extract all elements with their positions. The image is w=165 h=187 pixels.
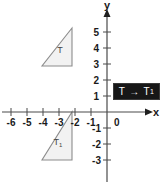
y-tick-label-3: 3 — [93, 59, 99, 70]
x-axis-label: x — [153, 106, 160, 118]
badge-arrow-icon: → — [129, 86, 139, 97]
y-tick-label-4: 4 — [93, 43, 99, 54]
x-tick-label--4: -4 — [39, 117, 48, 128]
badge-to-subscript: 1 — [150, 88, 154, 95]
y-tick-label--1: -1 — [92, 123, 101, 134]
y-tick-label--2: -2 — [92, 139, 101, 150]
x-axis-arrow-icon — [145, 109, 153, 116]
origin-label: 0 — [114, 117, 120, 128]
figure-canvas: -6 -5 -4 -3 -2 -1 1 2 3 4 5 -1 -2 -3 0 x… — [0, 0, 165, 187]
y-tick-label-1: 1 — [93, 91, 99, 102]
triangle-T-label: T — [57, 45, 63, 55]
badge-from-label: T — [119, 86, 125, 97]
y-tick-label--3: -3 — [92, 155, 101, 166]
x-tick-label--6: -6 — [7, 117, 16, 128]
x-tick-label--2: -2 — [71, 117, 80, 128]
transformation-badge: T → T1 — [113, 83, 160, 100]
y-axis-label: y — [104, 0, 111, 11]
x-tick-label--3: -3 — [55, 117, 64, 128]
x-tick-label--5: -5 — [23, 117, 32, 128]
y-tick-label-2: 2 — [93, 75, 99, 86]
y-tick-label-5: 5 — [93, 27, 99, 38]
